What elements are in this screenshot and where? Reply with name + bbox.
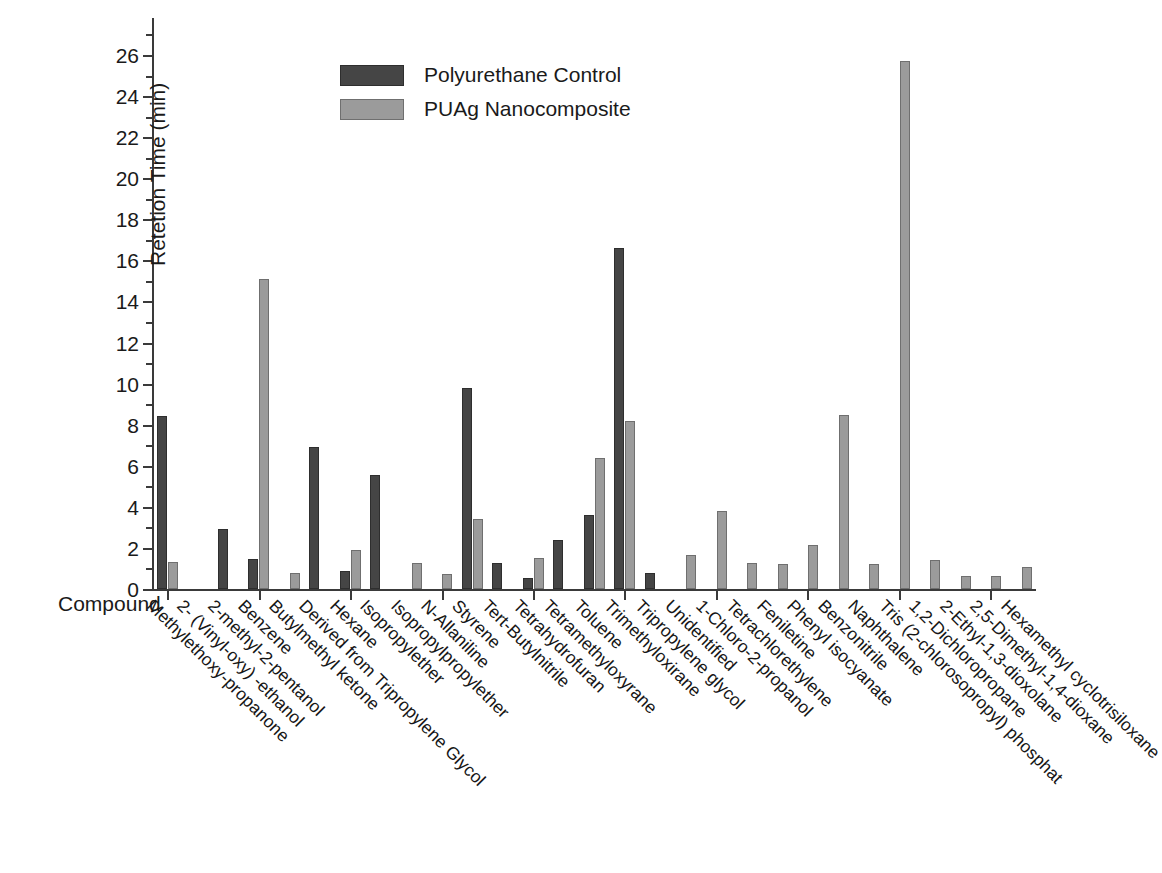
y-axis-title: Retetion Time (min) bbox=[146, 83, 170, 266]
y-tick-label: 22 bbox=[116, 127, 139, 148]
legend-swatch-control bbox=[340, 65, 404, 86]
bar-nano bbox=[442, 574, 452, 589]
y-tick-label: 8 bbox=[127, 414, 139, 435]
y-tick-label: 10 bbox=[116, 373, 139, 394]
bar-group bbox=[243, 18, 273, 589]
bar-group bbox=[182, 18, 212, 589]
legend-label-nano: PUAg Nanocomposite bbox=[424, 97, 631, 121]
bar-control bbox=[553, 540, 563, 589]
x-axis-category-labels: Methylethoxy-propanone2- (Vinyl-oxy) -et… bbox=[152, 597, 1036, 867]
bar-group bbox=[274, 18, 304, 589]
bar-group bbox=[762, 18, 792, 589]
y-tick-label: 20 bbox=[116, 168, 139, 189]
bar-control bbox=[309, 447, 319, 589]
bar-control bbox=[248, 559, 258, 589]
chart-legend: Polyurethane Control PUAg Nanocomposite bbox=[340, 60, 631, 128]
bar-control bbox=[614, 248, 624, 589]
bar-group bbox=[304, 18, 334, 589]
bar-nano bbox=[808, 545, 818, 589]
bar-group bbox=[792, 18, 822, 589]
legend-swatch-nano bbox=[340, 99, 404, 120]
bar-group bbox=[670, 18, 700, 589]
bar-nano bbox=[869, 564, 879, 589]
y-tick-label: 14 bbox=[116, 291, 139, 312]
y-tick-label: 24 bbox=[116, 86, 139, 107]
bar-group bbox=[213, 18, 243, 589]
y-tick-major bbox=[143, 55, 152, 57]
y-tick-label: 6 bbox=[127, 455, 139, 476]
bar-group bbox=[731, 18, 761, 589]
y-tick-label: 4 bbox=[127, 496, 139, 517]
bar-control bbox=[462, 388, 472, 589]
y-tick-major bbox=[143, 548, 152, 550]
y-tick-label: 2 bbox=[127, 537, 139, 558]
y-tick-major bbox=[143, 384, 152, 386]
bar-group bbox=[853, 18, 883, 589]
bar-group bbox=[975, 18, 1005, 589]
bar-control bbox=[157, 416, 167, 589]
bar-group bbox=[701, 18, 731, 589]
bar-nano bbox=[839, 415, 849, 589]
bar-nano bbox=[351, 550, 361, 589]
plot-area: 02468101214161820222426 Retetion Time (m… bbox=[152, 18, 1036, 591]
bar-nano bbox=[534, 558, 544, 589]
bar-nano bbox=[930, 560, 940, 589]
y-tick-major bbox=[143, 466, 152, 468]
bar-nano bbox=[900, 61, 910, 589]
legend-label-control: Polyurethane Control bbox=[424, 63, 621, 87]
y-tick-major bbox=[143, 343, 152, 345]
legend-item-control: Polyurethane Control bbox=[340, 60, 631, 90]
y-tick-label: 16 bbox=[116, 250, 139, 271]
y-tick-major bbox=[143, 301, 152, 303]
bar-control bbox=[370, 475, 380, 589]
bar-group bbox=[884, 18, 914, 589]
bar-group bbox=[1006, 18, 1036, 589]
y-tick-major bbox=[143, 425, 152, 427]
bar-nano bbox=[747, 563, 757, 589]
bar-control bbox=[218, 529, 228, 589]
bar-nano bbox=[686, 555, 696, 589]
bar-nano bbox=[168, 562, 178, 589]
bar-control bbox=[584, 515, 594, 589]
bar-control bbox=[340, 571, 350, 589]
bar-nano bbox=[290, 573, 300, 589]
y-tick-label: 12 bbox=[116, 332, 139, 353]
bar-group bbox=[914, 18, 944, 589]
x-axis-line bbox=[152, 589, 1036, 591]
bar-group bbox=[945, 18, 975, 589]
bar-nano bbox=[412, 563, 422, 589]
bar-control bbox=[645, 573, 655, 589]
bar-control bbox=[523, 578, 533, 589]
bar-nano bbox=[1022, 567, 1032, 589]
bar-nano bbox=[717, 511, 727, 589]
bar-nano bbox=[625, 421, 635, 589]
bar-nano bbox=[778, 564, 788, 589]
bar-group bbox=[640, 18, 670, 589]
bar-nano bbox=[961, 576, 971, 589]
bar-nano bbox=[259, 279, 269, 589]
y-tick-major bbox=[143, 507, 152, 509]
y-tick-major bbox=[143, 589, 152, 591]
bar-nano bbox=[991, 576, 1001, 589]
legend-item-nano: PUAg Nanocomposite bbox=[340, 94, 631, 124]
bar-control bbox=[492, 563, 502, 589]
bar-group bbox=[823, 18, 853, 589]
bar-nano bbox=[595, 458, 605, 589]
bar-nano bbox=[473, 519, 483, 589]
y-tick-label: 26 bbox=[116, 45, 139, 66]
y-tick-label: 18 bbox=[116, 209, 139, 230]
